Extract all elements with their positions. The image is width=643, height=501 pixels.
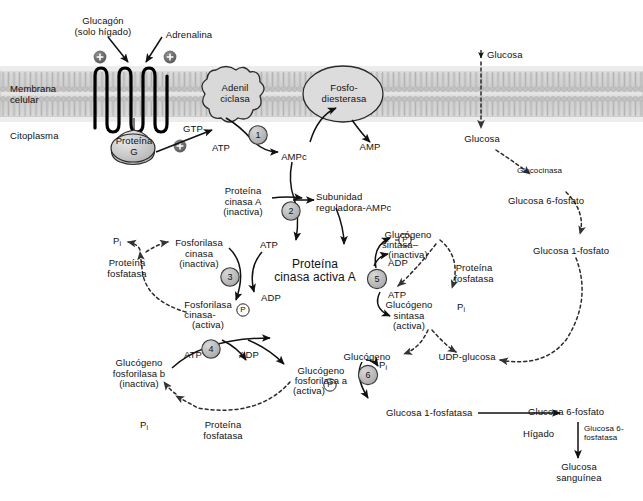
label-adenil-ciclasa: Adenil ciclasa: [207, 83, 263, 104]
label-membrana-celular: Membrana celular: [10, 84, 90, 105]
label-phosphate-fosforilasa-cinasa: P: [237, 305, 249, 314]
label-adp-step5: ADP: [388, 258, 422, 269]
label-step-6: 6: [359, 370, 377, 380]
label-proteina-g: Proteína G: [108, 136, 160, 157]
label-atp-step4: ATP: [176, 350, 210, 361]
label-proteina-fosfatasa-left: Proteína fosfatasa: [94, 258, 160, 279]
label-fosforilasa-cinasa-inactiva: Fosforilasa cinasa (inactiva): [166, 238, 232, 270]
arrow-ampc-to-pka: [290, 162, 297, 240]
dashed-phosphatase-bottom-loop: [176, 382, 290, 410]
label-atp-step3: ATP: [253, 240, 285, 251]
label-phosphate-glucogeno-sintasa: P: [399, 235, 411, 244]
label-proteina-fosfatasa-bottom: Proteína fosfatasa: [188, 420, 258, 441]
dashed-phosphatase-left-to-fosfcinasa: [146, 242, 168, 252]
label-phosphate-glucogeno-fosforilasa-a: P: [324, 380, 336, 389]
label-step-3: 3: [221, 272, 239, 282]
label-glucogeno: Glucógeno: [336, 352, 398, 363]
label-glucosa-sanguinea: Glucosa sanguínea: [546, 462, 612, 483]
label-gtp: GTP: [176, 124, 210, 135]
label-glucosa-1-fosfatasa: Glucosa 1-fosfatasa: [386, 408, 496, 419]
diagram-canvas: Glucagón (solo hígado) Adrenalina Membra…: [0, 0, 643, 501]
arrow-pkainactive-to-step2: [272, 197, 302, 198]
label-glucosa-1-fosfato: Glucosa 1-fosfato: [533, 246, 643, 257]
label-ampc: AMPc: [272, 152, 316, 163]
dashed-synthase-to-glycogen: [404, 330, 428, 354]
dashed-g1p-to-udpglucosa: [500, 258, 582, 362]
arrow-adrenalina-to-receptor: [146, 37, 162, 62]
label-step-1: 1: [249, 130, 267, 140]
arrow-pde-to-amp: [352, 120, 370, 142]
label-pi-left-top: Pi: [113, 236, 121, 249]
label-glucagon: Glucagón (solo hígado): [48, 16, 158, 37]
label-glucogeno-sintasa-activa: Glucógeno sintasa (activa): [378, 300, 440, 332]
label-glucosa-extracelular: Glucosa: [487, 50, 547, 61]
label-glucosa-intracelular: Glucosa: [452, 134, 512, 145]
label-adp-step3: ADP: [254, 293, 288, 304]
label-fosfodiesterasa: Fosfo- diesterasa: [313, 83, 375, 104]
label-glucosa-6-fosfato-top: Glucosa 6-fosfato: [508, 196, 618, 207]
label-citoplasma: Citoplasma: [10, 131, 90, 142]
dashed-synthase-to-udpglucosa: [432, 330, 456, 352]
dashed-phosphatase-left-to-pi: [128, 242, 140, 250]
label-subunidad-reguladora-ampc: Subunidad reguladora-AMPc: [316, 192, 420, 213]
label-amp: AMP: [352, 142, 388, 153]
label-pi-bottom: Pi: [140, 420, 148, 433]
label-fosforilasa-cinasa-activa-line3: (activa): [176, 320, 240, 331]
label-pi-right: Pi: [457, 302, 465, 315]
label-glucocinasa: Glucocinasa: [517, 166, 583, 175]
label-glucogeno-fosforilasa-b: Glucógeno fosforilasa b (inactiva): [100, 358, 178, 390]
membrane-receptor-7tm: [95, 68, 167, 132]
label-step-2: 2: [282, 206, 300, 216]
label-adrenalina: Adrenalina: [146, 30, 232, 41]
label-udp-glucosa: UDP-glucosa: [428, 352, 506, 363]
arrow-glucagon-to-receptor: [108, 37, 128, 62]
label-proteina-fosfatasa-right: Proteína fosfatasa: [442, 263, 506, 284]
label-proteina-cinasa-a-inactiva: Proteína cinasa A (inactiva): [212, 186, 274, 218]
label-pi-step6: Pi: [379, 360, 387, 373]
label-higado: Hígado: [523, 429, 571, 440]
label-atp-step1: ATP: [205, 143, 237, 154]
label-glucosa-6-fosfatasa: Glucosa 6- fosfatasa: [584, 424, 640, 442]
label-proteina-cinasa-activa-a: Proteína cinasa activa A: [258, 258, 372, 284]
arrow-subunit-to-activepka: [336, 208, 344, 244]
label-glucosa-6-fosfato-bottom: Glucosa 6-fosfato: [528, 407, 638, 418]
label-adp-step4: ADP: [232, 350, 266, 361]
